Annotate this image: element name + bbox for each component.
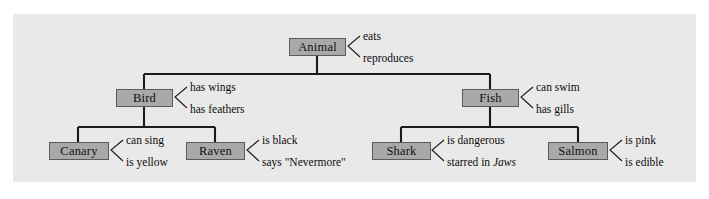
property-shark-starred-in-jaws: starred in Jaws bbox=[447, 156, 516, 169]
node-bird[interactable]: Bird bbox=[116, 89, 173, 107]
attr-connector-animal bbox=[348, 36, 360, 57]
node-animal[interactable]: Animal bbox=[289, 38, 346, 56]
node-canary[interactable]: Canary bbox=[49, 142, 109, 160]
attr-connector-raven bbox=[247, 140, 259, 161]
property-raven-is-black: is black bbox=[262, 134, 297, 147]
property-salmon-is-edible: is edible bbox=[625, 156, 664, 169]
property-raven-says-nevermore: says "Nevermore" bbox=[262, 156, 346, 169]
property-salmon-is-pink: is pink bbox=[625, 134, 656, 147]
link-layer bbox=[0, 0, 709, 199]
attr-connector-shark bbox=[432, 140, 444, 161]
diagram-canvas: Animal Bird Fish Canary Raven Shark Salm… bbox=[0, 0, 709, 199]
attr-connector-canary bbox=[111, 140, 123, 161]
property-bird-has-feathers: has feathers bbox=[190, 103, 245, 116]
property-canary-can-sing: can sing bbox=[126, 134, 164, 147]
property-animal-eats: eats bbox=[363, 30, 381, 43]
property-shark-is-dangerous: is dangerous bbox=[447, 134, 505, 147]
attr-connector-bird bbox=[175, 87, 187, 108]
property-shark-starred-prefix: starred in bbox=[447, 156, 493, 168]
semantic-network-figure: Animal Bird Fish Canary Raven Shark Salm… bbox=[0, 0, 709, 199]
property-fish-can-swim: can swim bbox=[536, 81, 580, 94]
node-salmon[interactable]: Salmon bbox=[548, 142, 608, 160]
attr-connector-fish bbox=[521, 87, 533, 108]
property-animal-reproduces: reproduces bbox=[363, 52, 413, 65]
node-shark[interactable]: Shark bbox=[372, 142, 431, 160]
property-bird-has-wings: has wings bbox=[190, 81, 236, 94]
property-canary-is-yellow: is yellow bbox=[126, 156, 168, 169]
attr-connector-salmon bbox=[610, 140, 622, 161]
node-raven[interactable]: Raven bbox=[186, 142, 245, 160]
property-fish-has-gills: has gills bbox=[536, 103, 574, 116]
property-shark-starred-title: Jaws bbox=[493, 156, 516, 168]
node-fish[interactable]: Fish bbox=[462, 89, 519, 107]
